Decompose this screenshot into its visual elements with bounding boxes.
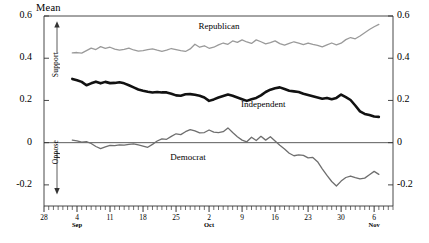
x-tick-day: 18 <box>139 213 147 222</box>
y-tick-label-right: 0 <box>397 136 427 147</box>
series-line-democrat <box>72 128 379 186</box>
x-tick-label: 16 <box>263 213 287 222</box>
y-tick-label-right: -0.2 <box>397 178 427 189</box>
x-tick-label: 4Sep <box>65 213 89 228</box>
x-tick-day: 16 <box>271 213 279 222</box>
x-tick-label: 23 <box>296 213 320 222</box>
x-tick-month: Nov <box>362 221 386 228</box>
x-tick-label: 18 <box>131 213 155 222</box>
support-label: Support <box>51 52 60 77</box>
series-label-republican: Republican <box>199 21 240 31</box>
x-tick-month: Sep <box>65 221 89 228</box>
x-tick-day: 23 <box>304 213 312 222</box>
series-line-independent <box>72 79 379 117</box>
y-tick-label-right: 0.2 <box>397 93 427 104</box>
oppose-label: Oppose <box>51 140 60 164</box>
x-tick-label: 9 <box>230 213 254 222</box>
x-tick-label: 2Oct <box>197 213 221 228</box>
x-tick-day: 28 <box>40 213 48 222</box>
chart-container: Mean 0.60.60.40.40.20.200-0.2-0.2284Sep1… <box>0 0 429 243</box>
y-tick-label-left: 0.6 <box>2 9 32 20</box>
series-label-independent: Independent <box>241 99 285 109</box>
x-tick-day: 25 <box>172 213 180 222</box>
x-tick-label: 28 <box>32 213 56 222</box>
x-tick-label: 30 <box>329 213 353 222</box>
oppose-arrow-head <box>54 188 59 194</box>
series-label-democrat: Democrat <box>170 152 205 162</box>
support-arrow-head <box>54 21 59 27</box>
y-tick-label-right: 0.4 <box>397 51 427 62</box>
y-tick-label-left: 0.2 <box>2 93 32 104</box>
chart-svg <box>0 0 429 243</box>
y-tick-label-right: 0.6 <box>397 9 427 20</box>
x-tick-label: 25 <box>164 213 188 222</box>
x-tick-day: 11 <box>106 213 113 222</box>
x-tick-month: Oct <box>197 221 221 228</box>
x-tick-day: 9 <box>240 213 244 222</box>
y-tick-label-left: 0.4 <box>2 51 32 62</box>
y-tick-label-left: 0 <box>2 136 32 147</box>
x-tick-day: 30 <box>337 213 345 222</box>
x-tick-label: 6Nov <box>362 213 386 228</box>
y-tick-label-left: -0.2 <box>2 178 32 189</box>
x-tick-label: 11 <box>98 213 122 222</box>
